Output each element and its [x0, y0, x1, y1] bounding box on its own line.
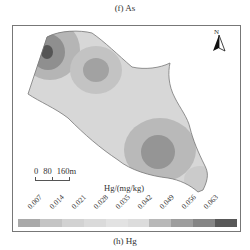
- legend-color-bar: [18, 219, 237, 227]
- legend-swatch: [171, 219, 193, 227]
- legend-swatch: [128, 219, 150, 227]
- legend-swatch: [215, 219, 237, 227]
- legend-tick: 0.021: [70, 193, 88, 211]
- legend-swatch: [84, 219, 106, 227]
- legend-tick: 0.049: [158, 193, 176, 211]
- scale-label-0: 0: [34, 166, 38, 176]
- legend-swatch: [62, 219, 84, 227]
- legend-tick: 0.056: [180, 193, 198, 211]
- scale-bar-labels: 080160m: [34, 166, 81, 176]
- north-arrow-icon: [211, 29, 227, 55]
- legend-tick: 0.063: [202, 193, 220, 211]
- legend-tick: 0.007: [26, 193, 44, 211]
- scale-label-80: 80: [43, 166, 52, 176]
- legend-swatch: [106, 219, 128, 227]
- legend-swatch: [40, 219, 62, 227]
- figure-caption: (h) Hg: [0, 236, 250, 246]
- legend-tick: 0.042: [136, 193, 154, 211]
- legend-title: Hg/(mg/kg): [104, 183, 144, 193]
- legend-ticks: 0.007 0.014 0.021 0.028 0.035 0.042 0.04…: [18, 196, 238, 214]
- legend-tick: 0.028: [92, 193, 110, 211]
- scale-bar-mid-tick: [52, 177, 53, 181]
- legend-tick: 0.035: [114, 193, 132, 211]
- legend-swatch: [193, 219, 215, 227]
- scale-label-160: 160m: [57, 166, 76, 176]
- legend-swatch: [18, 219, 40, 227]
- legend-swatch: [149, 219, 171, 227]
- legend-tick: 0.014: [48, 193, 66, 211]
